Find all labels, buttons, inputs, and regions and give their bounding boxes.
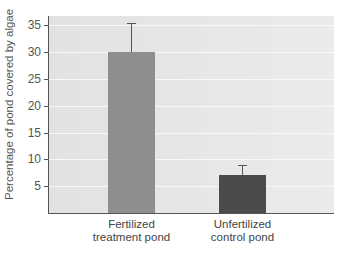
y-tick	[44, 159, 49, 160]
gridline	[49, 79, 334, 80]
gridline	[49, 106, 334, 107]
bar-fertilized	[108, 52, 155, 213]
x-category-label: Fertilizedtreatment pond	[77, 218, 187, 244]
y-tick-label: 30	[14, 46, 41, 58]
x-axis	[48, 213, 334, 214]
gridline	[49, 52, 334, 53]
y-tick	[44, 186, 49, 187]
y-tick-label: 20	[14, 100, 41, 112]
x-category-label-line: control pond	[188, 231, 298, 244]
error-bar-cap	[238, 165, 247, 166]
x-category-label: Unfertilizedcontrol pond	[188, 218, 298, 244]
gridline	[49, 133, 334, 134]
y-tick	[44, 133, 49, 134]
y-tick-label: 25	[14, 73, 41, 85]
error-bar	[131, 23, 132, 52]
y-axis-label: Percentage of pond covered by algae	[3, 9, 15, 200]
y-tick-label: 15	[14, 127, 41, 139]
y-tick-label: 10	[14, 153, 41, 165]
bar-unfertilized	[219, 175, 266, 213]
y-tick	[44, 79, 49, 80]
gridline	[49, 159, 334, 160]
y-axis	[48, 16, 49, 214]
plot-area	[49, 16, 334, 213]
x-category-label-line: treatment pond	[77, 231, 187, 244]
error-bar-cap	[127, 23, 136, 24]
y-tick-label: 35	[14, 19, 41, 31]
y-tick-label: 5	[14, 180, 41, 192]
y-tick	[44, 52, 49, 53]
x-category-label-line: Fertilized	[77, 218, 187, 231]
x-category-label-line: Unfertilized	[188, 218, 298, 231]
y-tick	[44, 25, 49, 26]
error-bar	[242, 165, 243, 175]
y-tick	[44, 106, 49, 107]
gridline	[49, 186, 334, 187]
gridline	[49, 25, 334, 26]
